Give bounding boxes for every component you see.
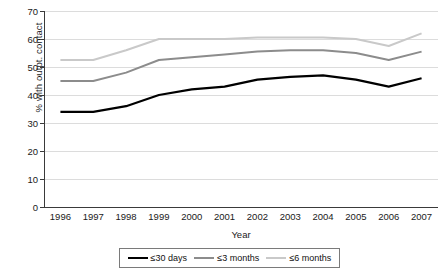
chart-page: % with outpt. contact 010203040506070 19…: [0, 0, 446, 277]
legend-swatch: [194, 257, 214, 259]
legend-label: ≤6 months: [289, 253, 331, 263]
legend-item[interactable]: ≤6 months: [266, 253, 331, 263]
legend-item[interactable]: ≤3 months: [194, 253, 259, 263]
legend-label: ≤30 days: [151, 253, 187, 263]
series-layer: [44, 11, 438, 207]
legend-swatch: [128, 257, 148, 260]
series-line: [60, 50, 421, 81]
y-tick-label: 10: [27, 174, 38, 185]
x-tick-label: 2004: [313, 211, 334, 222]
y-tick-label: 70: [27, 6, 38, 17]
y-tick-mark: [40, 207, 44, 208]
y-tick-label: 20: [27, 146, 38, 157]
x-tick-label: 1999: [148, 211, 169, 222]
x-tick-label: 2007: [411, 211, 432, 222]
x-tick-label: 2001: [214, 211, 235, 222]
plot-area: 010203040506070: [44, 11, 438, 207]
x-tick-label: 2006: [378, 211, 399, 222]
y-tick-label: 60: [27, 34, 38, 45]
y-tick-label: 30: [27, 118, 38, 129]
y-axis-title: % with outpt. contact: [33, 0, 44, 168]
y-tick-label: 0: [33, 202, 38, 213]
x-tick-label: 2005: [345, 211, 366, 222]
x-tick-label: 2003: [280, 211, 301, 222]
legend-item[interactable]: ≤30 days: [128, 253, 187, 263]
x-tick-label: 1996: [50, 211, 71, 222]
x-tick-label: 2002: [247, 211, 268, 222]
x-axis-line: [44, 207, 438, 208]
legend-label: ≤3 months: [217, 253, 259, 263]
y-tick-label: 40: [27, 90, 38, 101]
x-tick-label: 2000: [181, 211, 202, 222]
chart-legend: ≤30 days≤3 months≤6 months: [119, 248, 340, 268]
x-axis-title: Year: [44, 229, 438, 240]
legend-swatch: [266, 257, 286, 259]
series-line: [60, 75, 421, 111]
x-tick-label: 1997: [83, 211, 104, 222]
x-tick-label: 1998: [116, 211, 137, 222]
y-tick-label: 50: [27, 62, 38, 73]
